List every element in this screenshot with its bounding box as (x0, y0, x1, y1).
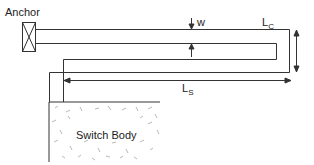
ls-arrow (64, 78, 291, 83)
switch-body-label: Switch Body (76, 130, 137, 141)
folded-beam (36, 30, 290, 103)
anchor-icon (23, 23, 36, 52)
ls-label: LS (182, 83, 193, 94)
ls-label-sub: S (188, 88, 193, 97)
lc-label-sub: C (268, 22, 274, 31)
lc-arrow (294, 30, 299, 72)
w-label: w (197, 17, 205, 28)
lc-label: LC (262, 17, 274, 28)
width-arrows (189, 18, 194, 57)
anchor-label: Anchor (5, 7, 40, 18)
